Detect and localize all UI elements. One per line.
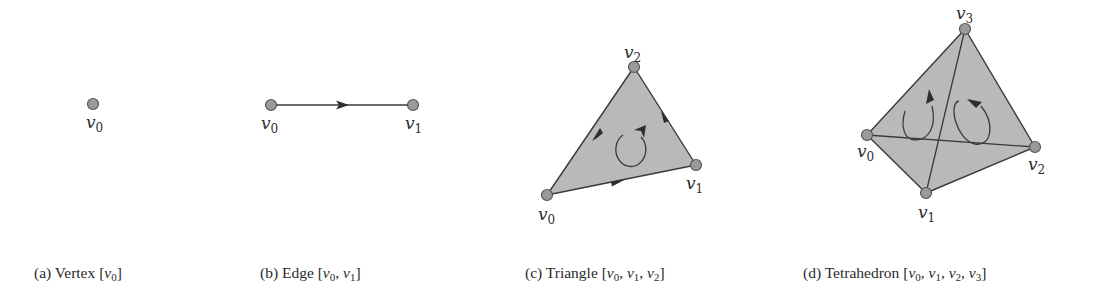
vertex-v0 bbox=[862, 130, 873, 141]
vertex-v0 bbox=[266, 100, 277, 111]
tetrahedron-silhouette bbox=[867, 29, 1035, 193]
caption-triangle: (c) Triangle [v0, v1, v2] bbox=[525, 264, 665, 283]
panel-tetrahedron: v0 v1 v2 v3 bbox=[857, 3, 1045, 225]
vertex-v1 bbox=[408, 100, 419, 111]
vertex-v1 bbox=[691, 160, 702, 171]
label-v0: v0 bbox=[261, 113, 278, 136]
panel-vertex: v0 bbox=[86, 99, 103, 136]
vertex-v0 bbox=[88, 99, 99, 110]
label-v0: v0 bbox=[538, 204, 555, 227]
vertex-v2 bbox=[1030, 142, 1041, 153]
panel-triangle: v0 v1 v2 bbox=[538, 42, 703, 227]
vertex-v0 bbox=[542, 190, 553, 201]
label-v1: v1 bbox=[918, 202, 935, 225]
caption-edge: (b) Edge [v0, v1] bbox=[260, 264, 361, 283]
label-v1: v1 bbox=[686, 173, 703, 196]
vertex-v1 bbox=[921, 188, 932, 199]
label-v0: v0 bbox=[857, 141, 874, 164]
label-v1: v1 bbox=[405, 113, 422, 136]
caption-vertex: (a) Vertex [v0] bbox=[34, 264, 122, 283]
label-v2: v2 bbox=[624, 42, 641, 65]
caption-tetrahedron: (d) Tetrahedron [v0, v1, v2, v3] bbox=[803, 264, 986, 283]
triangle-face bbox=[547, 67, 696, 195]
label-v3: v3 bbox=[956, 3, 973, 26]
simplex-figure: v0 v0 v1 v0 v1 v2 bbox=[0, 0, 1103, 297]
label-v2: v2 bbox=[1028, 154, 1045, 177]
panel-edge: v0 v1 bbox=[261, 100, 422, 137]
label-v0: v0 bbox=[86, 112, 103, 135]
